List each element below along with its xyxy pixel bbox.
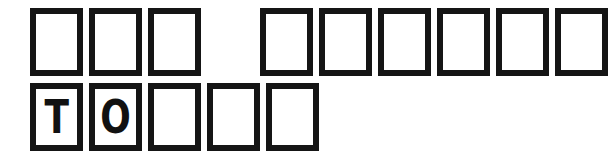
letter-cell[interactable]: T xyxy=(30,83,83,151)
letter-cell[interactable] xyxy=(148,8,201,76)
letter-cell[interactable] xyxy=(148,83,201,151)
word-group-top-2 xyxy=(260,8,608,76)
letter-cell[interactable] xyxy=(319,8,372,76)
letter-cell[interactable] xyxy=(555,8,608,76)
letter-cell[interactable] xyxy=(207,83,260,151)
letter-cell[interactable]: O xyxy=(89,83,142,151)
puzzle-row-top xyxy=(30,8,608,76)
letter-cell[interactable] xyxy=(30,8,83,76)
letter-cell[interactable] xyxy=(260,8,313,76)
letter-glyph: T xyxy=(44,94,68,140)
letter-cell[interactable] xyxy=(266,83,319,151)
puzzle-row-bottom: T O xyxy=(30,83,319,151)
letter-cell[interactable] xyxy=(89,8,142,76)
letter-cell[interactable] xyxy=(378,8,431,76)
letter-cell[interactable] xyxy=(496,8,549,76)
letter-glyph: O xyxy=(100,94,131,140)
word-group-top-1 xyxy=(30,8,201,76)
word-group-bottom-1: T O xyxy=(30,83,319,151)
letter-cell[interactable] xyxy=(437,8,490,76)
